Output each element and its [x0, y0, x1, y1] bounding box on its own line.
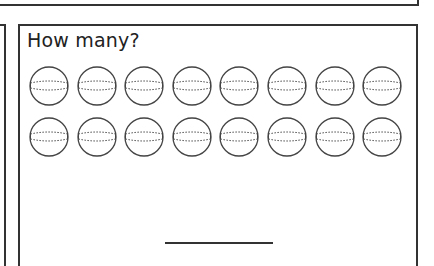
ball-icon	[362, 66, 402, 106]
adjacent-panel-border	[0, 24, 6, 266]
ball-icon	[172, 66, 212, 106]
ball-icon	[77, 66, 117, 106]
ball-icon	[124, 66, 164, 106]
answer-blank-line[interactable]	[165, 242, 273, 244]
question-title: How many?	[27, 29, 140, 51]
ball-icon	[267, 66, 307, 106]
ball-icon	[219, 66, 259, 106]
ball-icon	[29, 66, 69, 106]
ball-icon	[315, 117, 355, 157]
ball-icon	[267, 117, 307, 157]
ball-icon	[362, 117, 402, 157]
ball-icon	[172, 117, 212, 157]
ball-icon	[315, 66, 355, 106]
ball-icon	[124, 117, 164, 157]
ball-icon	[77, 117, 117, 157]
counting-question-panel: How many?	[18, 24, 418, 266]
ball-icon	[219, 117, 259, 157]
ball-icon	[29, 117, 69, 157]
previous-panel-border	[0, 0, 419, 6]
